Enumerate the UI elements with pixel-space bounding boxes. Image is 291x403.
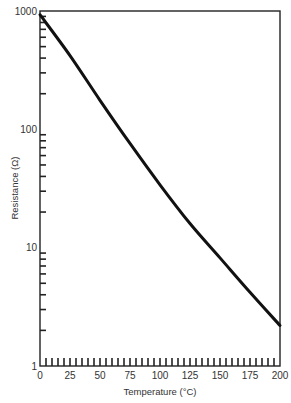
y-axis-title: Resistance (Ω) xyxy=(9,156,20,219)
x-tick-label: 25 xyxy=(64,370,76,381)
x-tick-label: 75 xyxy=(124,370,136,381)
x-tick-label: 0 xyxy=(37,370,43,381)
x-axis-tick-labels: 0255075100125150175200 xyxy=(37,370,289,381)
x-axis-title: Temperature (°C) xyxy=(124,386,197,397)
y-tick-label: 10 xyxy=(26,242,38,253)
x-axis-ticks xyxy=(46,358,274,366)
x-tick-label: 125 xyxy=(182,370,199,381)
resistance-curve xyxy=(40,15,280,326)
x-tick-label: 175 xyxy=(242,370,259,381)
x-tick-label: 200 xyxy=(272,370,289,381)
x-tick-label: 50 xyxy=(94,370,106,381)
x-tick-label: 100 xyxy=(152,370,169,381)
y-axis-ticks xyxy=(40,16,46,330)
resistance-temperature-chart: 1101001000 0255075100125150175200 Temper… xyxy=(0,0,291,403)
y-tick-label: 100 xyxy=(20,124,37,135)
x-tick-label: 150 xyxy=(212,370,229,381)
y-tick-label: 1000 xyxy=(15,6,38,17)
